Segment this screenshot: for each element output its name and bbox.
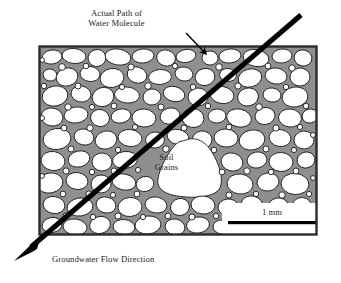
label-scale-bar: 1 mm [228, 207, 316, 217]
figure-canvas: Actual Path of Water Molecule Soil Grain… [0, 0, 341, 283]
soil-grain-diagram [0, 0, 341, 283]
scale-bar-rule [228, 221, 316, 224]
label-soil-grains: Soil Grains [0, 152, 337, 172]
label-actual-path-of-water-molecule: Actual Path of Water Molecule [0, 8, 287, 28]
label-groundwater-flow-direction: Groundwater Flow Direction [52, 254, 154, 264]
